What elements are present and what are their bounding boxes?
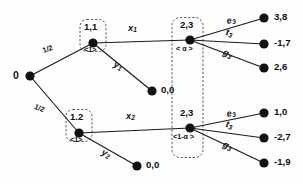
node-terminal-y1[interactable] — [147, 86, 156, 95]
node-terminal-top-1[interactable] — [259, 13, 268, 22]
node-label-n23top: 2,3 — [180, 20, 193, 30]
edge-n23top-t3 — [190, 40, 264, 44]
payoff-label-top-2: -1,7 — [274, 38, 291, 48]
node-type-n23top: < α > — [176, 45, 193, 52]
payoff-label-bot-2: -2,7 — [274, 132, 291, 142]
node-terminal-bot-2[interactable] — [259, 133, 268, 142]
node-label-n11: 1,1 — [84, 22, 97, 32]
node-terminal-y2[interactable] — [132, 161, 141, 170]
node-terminal-top-2[interactable] — [259, 39, 268, 48]
payoff-label-top-1: 3,8 — [274, 12, 287, 22]
action-label-x1: x1 — [128, 24, 137, 34]
edge-n11-x1 — [93, 40, 190, 43]
root-label: 0 — [13, 70, 19, 81]
node-terminal-bot-3[interactable] — [259, 158, 268, 167]
payoff-label-y2: 0,0 — [146, 160, 159, 170]
node-terminal-top-3[interactable] — [259, 63, 268, 72]
action-label-x2: x2 — [126, 112, 135, 122]
payoff-label-top-3: 2,6 — [274, 62, 287, 72]
tree-graphics — [0, 0, 303, 184]
node-type-n11: <1> — [84, 46, 96, 53]
payoff-label-y1: 0,0 — [161, 85, 174, 95]
node-type-n12: <1> — [70, 136, 82, 143]
node-terminal-bot-1[interactable] — [259, 108, 268, 117]
game-tree-diagram: 0 1/2 1/2 1,1 <1> 1.2 <1> 2,3 < α > 2,3 … — [0, 0, 303, 184]
payoff-label-bot-1: 1,0 — [274, 107, 287, 117]
payoff-label-bot-3: -1,9 — [274, 157, 291, 167]
node-label-n12: 1.2 — [70, 112, 83, 122]
node-label-n23bot: 2,3 — [180, 108, 193, 118]
action-label-e3-top: e3 — [226, 15, 237, 27]
node-root[interactable] — [25, 71, 34, 80]
node-type-n23bot: <1-α > — [173, 133, 194, 140]
action-label-x2-subscript: 2 — [131, 114, 135, 121]
action-label-x1-subscript: 1 — [133, 26, 137, 33]
